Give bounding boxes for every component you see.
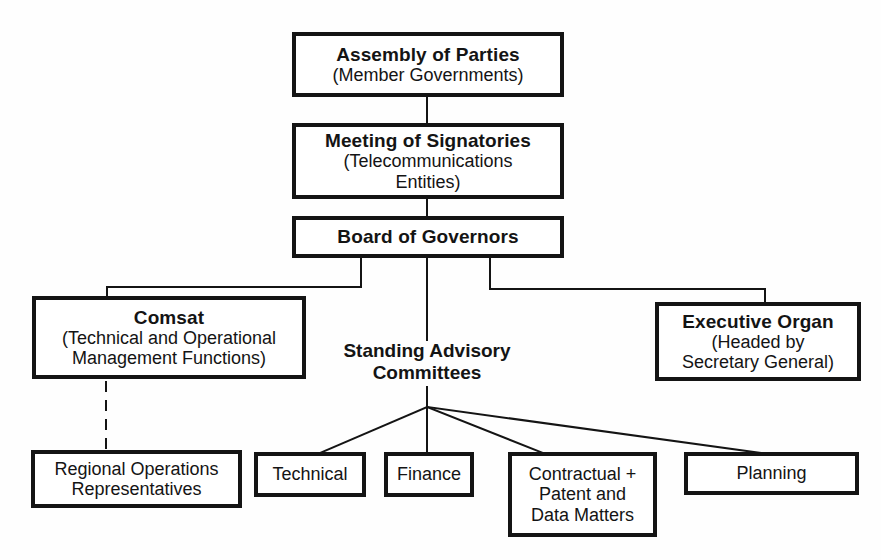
node-subtitle: (Member Governments) bbox=[332, 65, 523, 85]
node-subtitle: Regional Operations Representatives bbox=[54, 459, 218, 499]
node-title: Comsat bbox=[134, 307, 204, 328]
label-standing-advisory-committees: Standing Advisory Committees bbox=[317, 340, 537, 384]
node-title: Meeting of Signatories bbox=[325, 130, 531, 151]
node-subtitle: Technical bbox=[272, 464, 347, 484]
node-meeting-of-signatories: Meeting of Signatories (Telecommunicatio… bbox=[292, 123, 564, 199]
edge-board-executive bbox=[490, 257, 765, 303]
edge-board-comsat bbox=[107, 257, 361, 297]
node-finance: Finance bbox=[384, 452, 474, 497]
edge-hub-planning bbox=[427, 407, 762, 453]
node-subtitle: Planning bbox=[736, 463, 806, 483]
edge-hub-technical bbox=[320, 407, 427, 453]
edge-hub-contractual bbox=[427, 407, 543, 453]
node-subtitle: (Telecommunications Entities) bbox=[343, 151, 512, 191]
node-subtitle: (Technical and Operational Management Fu… bbox=[62, 328, 276, 368]
node-assembly-of-parties: Assembly of Parties (Member Governments) bbox=[292, 32, 564, 97]
node-title: Assembly of Parties bbox=[336, 44, 520, 65]
node-contractual-patent-data: Contractual + Patent and Data Matters bbox=[508, 452, 657, 537]
node-title: Executive Organ bbox=[682, 311, 833, 332]
node-technical: Technical bbox=[254, 452, 366, 497]
node-executive-organ: Executive Organ (Headed by Secretary Gen… bbox=[655, 302, 861, 381]
node-title: Board of Governors bbox=[337, 226, 518, 247]
node-regional-operations: Regional Operations Representatives bbox=[31, 450, 242, 508]
node-board-of-governors: Board of Governors bbox=[292, 216, 564, 258]
node-subtitle: (Headed by Secretary General) bbox=[682, 332, 834, 372]
node-subtitle: Contractual + Patent and Data Matters bbox=[529, 464, 637, 524]
node-planning: Planning bbox=[684, 452, 859, 495]
node-comsat: Comsat (Technical and Operational Manage… bbox=[32, 296, 306, 379]
node-subtitle: Finance bbox=[397, 464, 461, 484]
